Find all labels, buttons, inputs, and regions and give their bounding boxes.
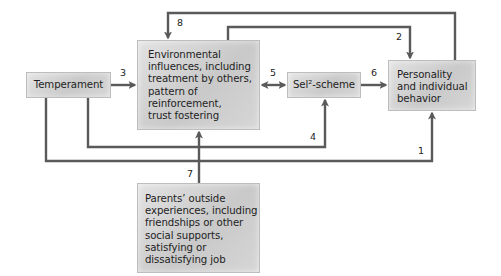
node-parents-experiences: Parents’ outside experiences, including … [137,183,260,273]
node-self-scheme: Sel²-scheme [287,72,361,98]
node-environmental-influences-label: Environmental influences, including trea… [138,41,259,122]
node-temperament-label: Temperament [34,79,103,91]
edge-label-3: 3 [120,67,126,78]
edge-label-4: 4 [310,131,316,142]
edge-label-6: 6 [371,67,377,78]
node-personality-behavior-label: Personality and individual behavior [389,61,475,106]
edge-label-7: 7 [187,168,193,179]
edge-label-2: 2 [396,31,402,42]
node-temperament: Temperament [26,72,111,98]
node-personality-behavior: Personality and individual behavior [388,60,476,111]
edge-label-8: 8 [177,17,183,28]
edge-label-5: 5 [270,67,276,78]
node-self-scheme-label: Sel²-scheme [293,79,355,91]
node-parents-experiences-label: Parents’ outside experiences, including … [138,184,259,266]
edge-label-1: 1 [418,145,424,156]
node-environmental-influences: Environmental influences, including trea… [137,40,260,130]
